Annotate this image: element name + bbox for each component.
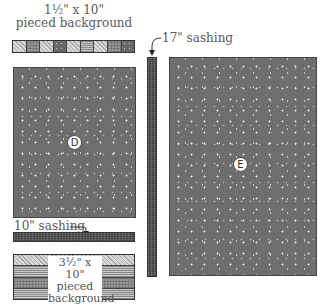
vertical-sashing-strip — [147, 57, 157, 277]
block-e-letter-badge: E — [233, 157, 248, 172]
